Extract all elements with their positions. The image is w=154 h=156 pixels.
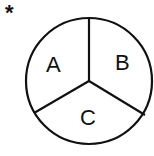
sector-label-a: A bbox=[46, 52, 61, 77]
sector-label-c: C bbox=[80, 105, 96, 130]
sector-label-b: B bbox=[115, 50, 130, 75]
three-sector-circle: A B C bbox=[0, 0, 154, 156]
divider-right bbox=[89, 81, 145, 115]
